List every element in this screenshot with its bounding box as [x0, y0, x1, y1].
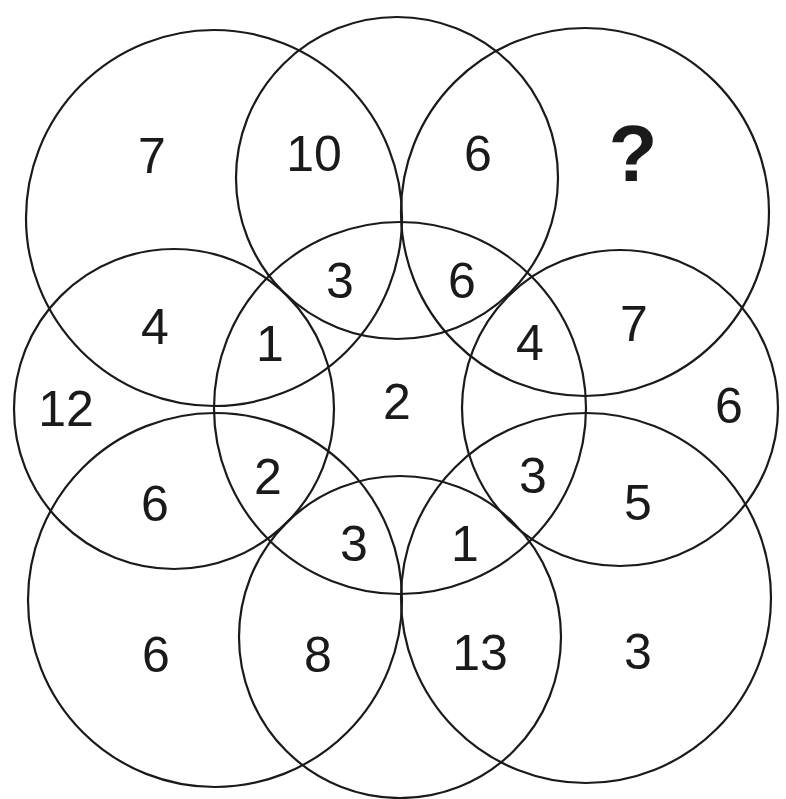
number-label: 3 [340, 516, 368, 572]
number-label: 5 [624, 475, 652, 531]
number-label: 2 [383, 374, 411, 430]
circle-bottom-left [28, 413, 402, 787]
circle-number-puzzle: 7106?364147122623653168133 [0, 0, 786, 799]
number-label: 2 [254, 449, 282, 505]
number-label: 6 [142, 627, 170, 683]
number-label: 13 [452, 625, 508, 681]
number-label: 3 [519, 448, 547, 504]
number-label: 3 [624, 624, 652, 680]
number-label: 6 [448, 253, 476, 309]
circle-top-right [401, 28, 769, 396]
number-label: 1 [256, 316, 284, 372]
number-label: 4 [141, 299, 169, 355]
question-mark: ? [609, 109, 658, 198]
circle-bottom-right [401, 413, 771, 783]
number-label: 8 [304, 627, 332, 683]
number-label: 6 [715, 378, 743, 434]
number-label: 7 [138, 128, 166, 184]
number-label: 1 [451, 516, 479, 572]
number-label: 12 [38, 381, 94, 437]
number-label: 3 [326, 253, 354, 309]
number-label: 10 [286, 126, 342, 182]
number-label: 6 [464, 126, 492, 182]
numbers-group: 7106?364147122623653168133 [38, 109, 743, 684]
number-label: 4 [516, 315, 544, 371]
number-label: 7 [620, 296, 648, 352]
number-label: 6 [141, 476, 169, 532]
circle-top-left [26, 30, 402, 406]
